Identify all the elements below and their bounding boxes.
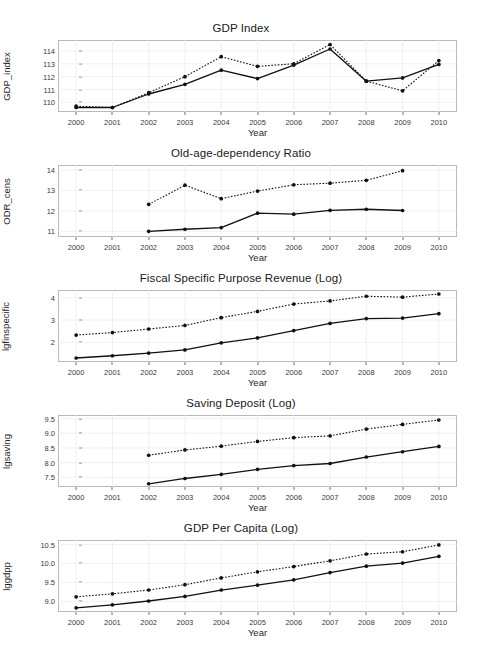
data-point [256, 77, 260, 81]
x-tick-label: 2001 [104, 368, 121, 377]
x-tick-label: 2010 [431, 618, 448, 627]
chart-title: GDP Index [0, 22, 482, 34]
x-tick-label: 2010 [431, 368, 448, 377]
x-tick-mark [402, 612, 403, 615]
x-tick-label: 2002 [140, 243, 157, 252]
data-point [292, 565, 296, 569]
y-tick-label: 14 [47, 166, 55, 175]
x-tick-mark [330, 362, 331, 365]
x-tick-label: 2006 [285, 493, 302, 502]
data-point [147, 588, 151, 592]
x-tick-label: 2007 [322, 493, 339, 502]
y-tick-label: 110 [43, 98, 55, 107]
data-point [147, 229, 151, 233]
data-point [292, 302, 296, 306]
data-point [401, 169, 405, 173]
data-point [147, 453, 151, 457]
x-tick-label: 2004 [213, 368, 230, 377]
data-point [111, 592, 115, 596]
data-point [364, 317, 368, 321]
data-point [437, 445, 441, 449]
data-point [74, 595, 78, 599]
y-tick-label: 8.0 [45, 458, 55, 467]
data-point [183, 448, 187, 452]
y-tick-label: 11 [47, 227, 55, 236]
data-point [183, 595, 187, 599]
y-tick-label: 3 [51, 316, 55, 325]
data-point [437, 418, 441, 422]
plot-area [58, 290, 457, 362]
chart-title: Old-age-dependency Ratio [0, 147, 482, 159]
data-point [364, 455, 368, 459]
x-tick-label: 2009 [394, 618, 411, 627]
y-tick-group: 234 [24, 290, 55, 362]
x-tick-label: 2002 [140, 368, 157, 377]
data-point [256, 336, 260, 340]
chart-title: Saving Deposit (Log) [0, 397, 482, 409]
data-point [364, 427, 368, 431]
chart-panel-4: Saving Deposit (Log)lgsaving7.58.08.59.0… [0, 397, 482, 522]
x-tick-mark [221, 112, 222, 115]
y-axis-label: lgsaving [0, 415, 13, 487]
data-point [401, 550, 405, 554]
y-axis-label-text: lgsaving [1, 434, 12, 469]
data-point [219, 588, 223, 592]
x-tick-label: 2006 [285, 368, 302, 377]
x-tick-label: 2007 [322, 368, 339, 377]
x-tick-mark [330, 112, 331, 115]
x-tick-label: 2004 [213, 243, 230, 252]
y-tick-label: 9.0 [45, 429, 55, 438]
x-tick-mark [184, 112, 185, 115]
x-tick-mark [148, 362, 149, 365]
x-tick-label: 2000 [68, 368, 85, 377]
x-tick-mark [257, 112, 258, 115]
data-point [328, 43, 332, 47]
chart-panel-5: GDP Per Capita (Log)lggdpp9.09.510.010.5… [0, 522, 482, 647]
data-point [401, 76, 405, 80]
x-tick-label: 2010 [431, 243, 448, 252]
x-tick-mark [366, 487, 367, 490]
chart-panel-3: Fiscal Specific Purpose Revenue (Log)lgf… [0, 272, 482, 397]
data-point [292, 464, 296, 468]
x-tick-mark [184, 487, 185, 490]
series-line-solid [149, 209, 403, 231]
data-point [183, 183, 187, 187]
y-tick-group: 11121314 [24, 165, 55, 237]
data-point [364, 552, 368, 556]
y-tick-label: 111 [44, 85, 55, 94]
x-tick-mark [366, 362, 367, 365]
data-point [328, 208, 332, 212]
x-tick-mark [112, 362, 113, 365]
y-tick-label: 9.5 [45, 414, 55, 423]
y-tick-label: 10.0 [40, 559, 55, 568]
y-tick-label: 9.0 [45, 597, 55, 606]
y-tick-group: 9.09.510.010.5 [24, 540, 55, 612]
data-point [219, 226, 223, 230]
y-axis-label-text: GDP_index [1, 52, 12, 101]
x-axis-label: Year [58, 502, 457, 513]
x-tick-label: 2004 [213, 118, 230, 127]
data-point [256, 468, 260, 472]
data-point [256, 189, 260, 193]
x-tick-label: 2001 [104, 243, 121, 252]
data-point [219, 197, 223, 201]
x-tick-mark [184, 237, 185, 240]
data-point [437, 312, 441, 316]
x-tick-mark [438, 487, 439, 490]
x-tick-mark [184, 612, 185, 615]
x-tick-mark [257, 612, 258, 615]
x-tick-mark [184, 362, 185, 365]
x-tick-label: 2005 [249, 243, 266, 252]
x-tick-mark [112, 612, 113, 615]
x-tick-mark [257, 237, 258, 240]
figure-root: GDP IndexGDP_index1101111121131142000200… [0, 0, 482, 651]
data-point [437, 63, 441, 67]
x-tick-label: 2003 [177, 493, 194, 502]
x-tick-label: 2002 [140, 493, 157, 502]
x-tick-mark [257, 362, 258, 365]
data-point [219, 68, 223, 72]
data-point [292, 436, 296, 440]
x-tick-mark [438, 237, 439, 240]
data-point [328, 434, 332, 438]
data-point [111, 603, 115, 607]
